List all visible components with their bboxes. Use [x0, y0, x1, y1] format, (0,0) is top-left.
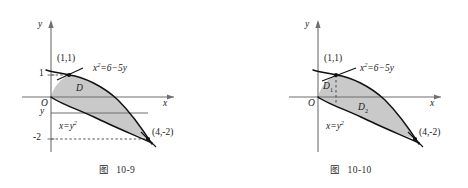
caption-word: 图	[330, 165, 340, 175]
marker-dot-1-1	[334, 73, 338, 77]
region-D2-base: D	[358, 102, 365, 112]
curve-label-lower-base: x=y	[59, 121, 74, 131]
point-1-1-label: (1,1)	[324, 54, 342, 64]
curve-label-lower: x=y2	[326, 120, 344, 132]
x-axis-label: x	[430, 99, 434, 109]
figure-10-10-caption: 图10-10	[234, 162, 468, 176]
x-axis-arrowhead	[434, 94, 441, 99]
curve-label-upper-rest: =6−5y	[100, 63, 127, 73]
x-axis-arrowhead	[167, 94, 174, 99]
y-tick-1-label: 1	[39, 69, 44, 79]
figure-10-9-caption: 图10-9	[0, 162, 234, 176]
region-D1-subscript: 1	[330, 86, 333, 93]
point-1-1-label: (1,1)	[57, 54, 75, 64]
figure-sheet: y x O 1 -2 y (1,1) (4,-2) x2=6−5y x=y2 D…	[0, 0, 468, 188]
curve-label-lower-exponent: 2	[74, 119, 77, 126]
y-tick-neg2-label: -2	[33, 133, 41, 143]
figure-10-10: y x O (1,1) (4,-2) x2=6−5y x=y2 D1 D2 图1…	[234, 0, 468, 188]
y-axis-arrowhead	[315, 20, 320, 28]
region-D1-label: D1	[323, 82, 333, 93]
caption-number: 10-10	[348, 165, 372, 175]
origin-label: O	[308, 99, 315, 109]
region-D2-label: D2	[358, 103, 368, 114]
y-axis-label: y	[38, 20, 42, 30]
curve-label-upper: x2=6−5y	[360, 62, 394, 74]
region-D-label: D	[76, 84, 83, 94]
curve-label-upper: x2=6−5y	[93, 62, 127, 74]
y-tick-var-label: y	[40, 107, 44, 117]
caption-number: 10-9	[116, 165, 135, 175]
curve-label-lower-base: x=y	[326, 121, 341, 131]
curve-label-lower-exponent: 2	[341, 119, 344, 126]
y-axis-label: y	[305, 20, 309, 30]
y-axis-arrowhead	[48, 20, 53, 28]
x-axis-label: x	[163, 99, 167, 109]
marker-dot-1-1	[67, 73, 71, 77]
region-D2-subscript: 2	[365, 107, 368, 114]
figure-10-9: y x O 1 -2 y (1,1) (4,-2) x2=6−5y x=y2 D…	[0, 0, 234, 188]
region-D1-base: D	[323, 81, 330, 91]
point-4-neg2-label: (4,-2)	[419, 128, 440, 138]
point-4-neg2-label: (4,-2)	[152, 128, 173, 138]
curve-label-lower: x=y2	[59, 120, 77, 132]
figure-10-9-graphic	[0, 0, 234, 188]
curve-label-upper-rest: =6−5y	[367, 63, 394, 73]
figure-10-10-graphic	[234, 0, 468, 188]
caption-word: 图	[99, 165, 109, 175]
